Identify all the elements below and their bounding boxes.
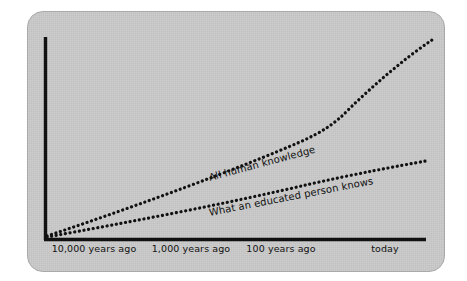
chart-plot-area: [0, 0, 467, 281]
x-tick-label-100-years-ago: 100 years ago: [238, 243, 324, 254]
x-tick-label-1000-years-ago: 1,000 years ago: [145, 243, 237, 254]
x-tick-label-10000-years-ago: 10,000 years ago: [44, 243, 144, 254]
x-tick-label-today: today: [352, 243, 418, 254]
chart-figure: All human knowledge What an educated per…: [0, 0, 467, 281]
